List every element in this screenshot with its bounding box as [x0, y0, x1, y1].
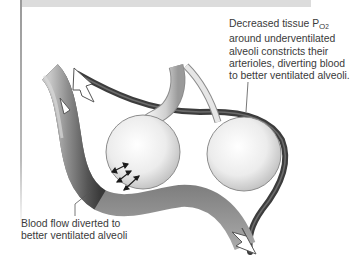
annotation-blood-flow-diverted: Blood flow diverted to better ventilated…: [21, 218, 127, 243]
alveolus-left: [106, 115, 180, 189]
leader-line-top: [246, 82, 248, 112]
annotation-bottom-line-2: better ventilated alveoli: [21, 230, 127, 242]
alveolus-right: [207, 117, 281, 191]
annotation-hypoxic-vasoconstriction: Decreased tissue PO2 around underventila…: [229, 18, 350, 82]
annotation-top-line-5: to better ventilated alveoli.: [229, 70, 350, 82]
annotation-top-line-3: alveoli constricts their: [229, 46, 350, 58]
annotation-top-line-2: around underventilated: [229, 33, 350, 45]
annotation-top-line-1: Decreased tissue PO2: [229, 18, 350, 33]
annotation-bottom-line-1: Blood flow diverted to: [21, 218, 127, 230]
annotation-top-line-4: arterioles, diverting blood: [229, 58, 350, 70]
